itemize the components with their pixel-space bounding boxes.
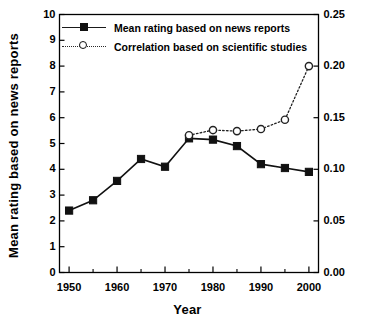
x-tick-label: 1950 <box>47 281 91 293</box>
data-point-square <box>113 177 120 184</box>
data-point-square <box>137 155 144 162</box>
data-point-circle <box>257 125 264 132</box>
y-tick-label-left: 7 <box>14 85 56 97</box>
data-point-circle <box>185 132 192 139</box>
data-point-square <box>209 136 216 143</box>
data-point-square <box>89 197 96 204</box>
data-point-circle <box>305 63 312 70</box>
y-tick-label-right: 0.20 <box>324 59 370 71</box>
series-line-0 <box>69 138 309 210</box>
x-tick-label: 2000 <box>287 281 331 293</box>
y-tick-label-left: 6 <box>14 111 56 123</box>
y-tick-label-left: 0 <box>14 266 56 278</box>
y-tick-label-right: 0.10 <box>324 162 370 174</box>
y-tick-label-left: 1 <box>14 240 56 252</box>
x-tick-label: 1960 <box>95 281 139 293</box>
y-tick-label-right: 0.25 <box>324 8 370 20</box>
legend-item-scientific-studies: Correlation based on scientific studies <box>62 37 312 56</box>
data-point-circle <box>209 126 216 133</box>
legend-item-news-reports: Mean rating based on news reports <box>62 18 312 37</box>
chart-figure: Mean rating based on news reports Year M… <box>0 0 375 328</box>
y-tick-label-left: 10 <box>14 8 56 20</box>
legend-key-open-circle-icon <box>62 40 106 54</box>
legend-label-news-reports: Mean rating based on news reports <box>114 22 290 34</box>
data-point-square <box>281 164 288 171</box>
y-tick-label-right: 0.15 <box>324 111 370 123</box>
data-point-square <box>233 142 240 149</box>
chart-legend: Mean rating based on news reports Correl… <box>62 18 312 56</box>
y-tick-label-left: 4 <box>14 162 56 174</box>
y-tick-label-left: 2 <box>14 214 56 226</box>
y-tick-label-left: 9 <box>14 33 56 45</box>
data-point-square <box>257 161 264 168</box>
y-tick-label-right: 0.00 <box>324 266 370 278</box>
series-line-1 <box>189 66 309 135</box>
x-tick-label: 1970 <box>143 281 187 293</box>
legend-key-filled-square-icon <box>62 21 106 35</box>
x-tick-label: 1980 <box>191 281 235 293</box>
y-tick-label-left: 8 <box>14 59 56 71</box>
data-point-square <box>161 163 168 170</box>
data-point-square <box>305 168 312 175</box>
data-point-square <box>65 207 72 214</box>
x-tick-label: 1990 <box>239 281 283 293</box>
y-tick-label-right: 0.05 <box>324 214 370 226</box>
y-tick-label-left: 5 <box>14 137 56 149</box>
data-point-circle <box>233 128 240 135</box>
data-point-circle <box>281 116 288 123</box>
y-tick-label-left: 3 <box>14 188 56 200</box>
legend-label-scientific-studies: Correlation based on scientific studies <box>114 41 307 53</box>
